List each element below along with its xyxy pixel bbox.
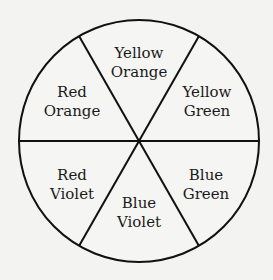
segment-yellow-orange: Yellow Orange	[99, 44, 179, 82]
segment-label-line2: Orange	[32, 102, 112, 121]
color-wheel	[0, 0, 273, 280]
segment-label-line2: Violet	[99, 213, 179, 232]
segment-red-violet: Red Violet	[32, 166, 112, 204]
segment-label-line2: Violet	[32, 185, 112, 204]
segment-label-line2: Orange	[99, 63, 179, 82]
segment-label-line1: Yellow	[99, 44, 179, 63]
segment-label-line1: Blue	[166, 166, 246, 185]
segment-label-line1: Red	[32, 83, 112, 102]
segment-label-line1: Red	[32, 166, 112, 185]
segment-yellow-green: Yellow Green	[167, 83, 247, 121]
segment-label-line2: Green	[167, 102, 247, 121]
segment-label-line1: Yellow	[167, 83, 247, 102]
segment-red-orange: Red Orange	[32, 83, 112, 121]
